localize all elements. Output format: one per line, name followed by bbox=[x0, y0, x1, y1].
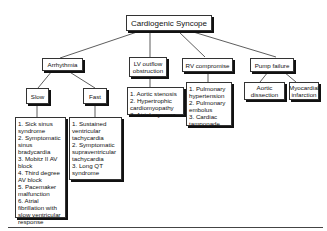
slow-causes-list: 1. Sick sinus syndrome 2. Symptomatic si… bbox=[15, 117, 66, 218]
node-lv-outflow: LV outflow obstruction bbox=[129, 57, 167, 77]
root-label: Cardiogenic Syncope bbox=[131, 20, 207, 27]
node-aortic-dissection: Aortic dissection bbox=[244, 82, 285, 100]
list-item: 1. Aortic stenosis bbox=[130, 90, 181, 97]
myocardial-infarction-label: Myocardial infarction bbox=[289, 84, 319, 98]
node-slow: Slow bbox=[26, 88, 49, 104]
node-myocardial-infarction: Myocardial infarction bbox=[289, 82, 319, 100]
list-item: 2. Symptomatic sinus bradycardia bbox=[18, 134, 63, 155]
fast-label: Fast bbox=[89, 93, 101, 100]
list-item: 1. Sick sinus syndrome bbox=[18, 120, 63, 134]
list-item: 2. Pulmonary embolus bbox=[189, 99, 229, 113]
aortic-dissection-label: Aortic dissection bbox=[247, 84, 282, 98]
fast-causes-list: 1. Sustained ventricular tachycardia 2. … bbox=[69, 117, 122, 180]
node-rv-compromise: RV compromise bbox=[182, 58, 233, 72]
node-arrhythmia: Arrhythmia bbox=[42, 58, 83, 71]
list-item: 5. Pacemaker malfunction bbox=[18, 183, 63, 197]
list-item: 1. Sustained ventricular tachycardia bbox=[72, 120, 119, 141]
lv-outflow-label: LV outflow obstruction bbox=[132, 60, 164, 74]
list-item: 6. Atrial fibrillation with slow ventric… bbox=[18, 197, 63, 225]
arrhythmia-label: Arrhythmia bbox=[48, 61, 78, 68]
list-item: 3. Long QT syndrome bbox=[72, 162, 119, 176]
list-item: 3. Cardiac tamponade bbox=[189, 113, 229, 127]
root-node: Cardiogenic Syncope bbox=[126, 15, 212, 31]
slow-label: Slow bbox=[31, 93, 44, 100]
list-item: 1. Pulmonary hypertension bbox=[189, 85, 229, 99]
rv-compromise-label: RV compromise bbox=[186, 62, 230, 69]
list-item: 3. Mobitz II AV block bbox=[18, 155, 63, 169]
list-item: 2. Hypertrophic cardiomyopathy bbox=[130, 97, 181, 111]
lv-outflow-causes-list: 1. Aortic stenosis 2. Hypertrophic cardi… bbox=[127, 87, 184, 115]
list-item: 2. Symptomatic supraventricular tachycar… bbox=[72, 141, 119, 162]
bottom-divider bbox=[8, 227, 323, 228]
list-item: 4. Third degree AV block bbox=[18, 169, 63, 183]
pump-failure-label: Pump failure bbox=[255, 62, 290, 69]
rv-compromise-causes-list: 1. Pulmonary hypertension 2. Pulmonary e… bbox=[186, 82, 232, 126]
node-pump-failure: Pump failure bbox=[250, 58, 294, 72]
list-item: 3. Atrial myxoma bbox=[130, 111, 181, 118]
node-fast: Fast bbox=[83, 88, 107, 104]
